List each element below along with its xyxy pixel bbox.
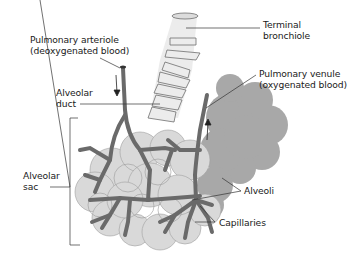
label-alveolar-duct: Alveolar duct <box>56 87 93 109</box>
label-pulmonary-arteriole: Pulmonary arteriole (deoxygenated blood) <box>30 34 129 56</box>
terminal-bronchiole <box>148 13 200 122</box>
label-pulmonary-venule: Pulmonary venule (oxygenated blood) <box>259 68 347 90</box>
label-terminal-bronchiole: Terminal bronchiole <box>263 19 310 41</box>
arteriole-opening-icon <box>120 66 126 69</box>
label-alveoli: Alveoli <box>244 185 274 196</box>
label-alveolar-sac: Alveolar sac <box>23 170 60 192</box>
arteriole-flow-arrow <box>114 75 120 96</box>
label-capillaries: Capillaries <box>219 217 266 228</box>
